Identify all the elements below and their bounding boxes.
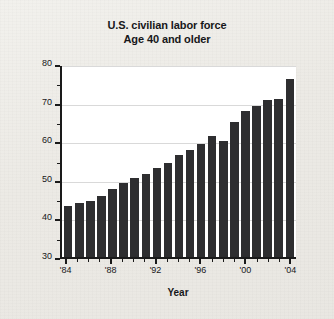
x-tick-minor-2001 <box>257 259 258 262</box>
y-tick-label: 40 <box>42 213 52 222</box>
x-tick-minor-2003 <box>279 259 280 262</box>
x-tick-mark <box>155 259 157 264</box>
x-tick-minor-1989 <box>122 259 123 262</box>
bar <box>97 196 105 257</box>
x-tick-minor-2002 <box>268 259 269 262</box>
bar <box>208 136 216 257</box>
bar <box>130 178 138 257</box>
chart-title: U.S. civilian labor force <box>0 18 334 32</box>
bar <box>119 183 127 257</box>
bar <box>274 99 282 257</box>
x-tick-mark <box>199 259 201 264</box>
x-tick-minor-1987 <box>99 259 100 262</box>
bar <box>286 79 294 257</box>
bar <box>142 174 150 257</box>
x-tick-mark <box>65 259 67 264</box>
bar <box>219 141 227 257</box>
chart-subtitle: Age 40 and older <box>0 32 334 46</box>
x-tick-minor-1994 <box>178 259 179 262</box>
bar <box>186 150 194 257</box>
y-tick-label: 80 <box>42 59 52 68</box>
x-axis-label: Year <box>60 287 296 298</box>
y-tick-label: 70 <box>42 98 52 107</box>
x-tick-label: '92 <box>145 265 167 275</box>
x-tick-label: '00 <box>234 265 256 275</box>
bar <box>108 189 116 257</box>
x-tick-minor-1991 <box>144 259 145 262</box>
x-tick-minor-1997 <box>212 259 213 262</box>
bar <box>64 206 72 257</box>
x-tick-label: '96 <box>189 265 211 275</box>
bar <box>86 201 94 257</box>
bar <box>175 155 183 257</box>
x-tick-minor-1986 <box>88 259 89 262</box>
x-tick-minor-1998 <box>223 259 224 262</box>
x-tick-mark <box>289 259 291 264</box>
x-tick-mark <box>110 259 112 264</box>
bar <box>263 100 271 257</box>
x-tick-label: '04 <box>279 265 301 275</box>
bar <box>197 144 205 257</box>
x-tick-minor-1990 <box>133 259 134 262</box>
bar <box>252 106 260 257</box>
y-tick-label: 60 <box>42 136 52 145</box>
x-tick-minor-1999 <box>234 259 235 262</box>
x-tick-label: '84 <box>55 265 77 275</box>
plot-area <box>60 66 296 259</box>
y-tick-label: 30 <box>42 252 52 261</box>
chart-title-block: U.S. civilian labor force Age 40 and old… <box>0 18 334 46</box>
x-tick-minor-1995 <box>189 259 190 262</box>
x-tick-label: '88 <box>100 265 122 275</box>
x-axis-ticks: '84'88'92'96'00'04 <box>60 259 296 283</box>
x-tick-mark <box>244 259 246 264</box>
bar <box>241 111 249 257</box>
chart-figure: U.S. civilian labor force Age 40 and old… <box>0 0 334 319</box>
y-axis-ticks: 807060504030 <box>0 66 60 259</box>
x-tick-minor-1985 <box>77 259 78 262</box>
bar <box>164 163 172 257</box>
bar <box>153 168 161 257</box>
bar <box>75 203 83 257</box>
bar-series <box>62 66 296 257</box>
bar <box>230 122 238 257</box>
y-tick-label: 50 <box>42 175 52 184</box>
x-tick-minor-1993 <box>167 259 168 262</box>
